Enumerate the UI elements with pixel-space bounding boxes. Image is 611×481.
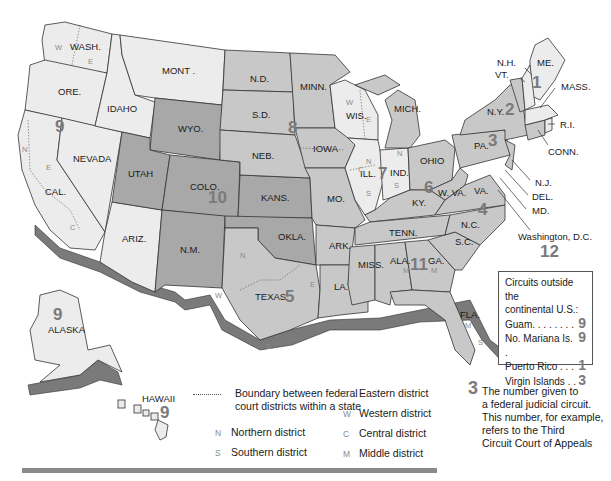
label-mass: MASS. [561,81,591,92]
label-utah: UTAH [128,168,153,179]
label-sd: S.D. [252,109,270,120]
outside-row-puerto-rico: Puerto Rico . . .1 [505,359,586,374]
legend-circuit-note: 3 The number given to a federal judicial… [468,385,608,450]
svg-text:M: M [431,266,437,275]
outside-title-2: continental U.S.: [505,303,586,317]
svg-text:E: E [88,57,93,66]
legend-ewcm: EEastern district WWestern district CCen… [343,387,431,461]
label-wash: WASH. [70,41,101,52]
circuit-2: 2 [505,100,514,119]
label-nm: N.M. [180,244,200,255]
label-wyo: WYO. [178,123,203,134]
circuit-1: 1 [532,73,541,92]
label-mo: MO. [327,193,345,204]
outside-title-1: Circuits outside the [505,276,586,303]
svg-text:E: E [366,115,371,124]
label-ri: R.I. [560,119,575,130]
svg-text:C: C [70,223,76,232]
outside-row-mariana: No. Mariana Is. .9 [505,331,586,359]
label-neb: NEB. [252,150,274,161]
svg-text:N: N [240,251,245,260]
label-nevada: NEVADA [73,153,112,164]
label-ariz: ARIZ. [122,233,146,244]
label-va: VA. [474,185,489,196]
svg-text:M: M [403,266,409,275]
label-cal: CAL. [45,186,66,197]
label-mich: MICH. [394,103,421,114]
label-pa: PA. [474,140,489,151]
state-ariz [100,202,162,292]
label-nc: N.C. [461,219,480,230]
circuit-6: 6 [424,178,433,197]
state-miss [348,245,375,305]
label-ore: ORE. [58,86,81,97]
label-idaho: IDAHO [107,103,137,114]
svg-text:E: E [46,163,51,172]
svg-text:C: C [358,165,364,174]
legend-boundary: Boundary between federal court districts… [193,387,361,413]
label-fla: FLA. [460,309,480,320]
label-sc: S.C. [455,236,473,247]
svg-text:N: N [366,157,371,166]
label-dc: Washington, D.C. [518,231,592,242]
circuit-5: 5 [285,287,294,306]
svg-text:W: W [55,43,63,52]
label-alaska: ALASKA [48,324,86,335]
label-hawaii: HAWAII [142,393,175,404]
svg-text:E: E [310,280,315,289]
label-md: MD. [532,205,549,216]
label-del: DEL. [532,191,553,202]
dotted-line-icon [193,394,221,395]
circuit-9: 9 [55,117,64,136]
label-ala: ALA. [390,255,411,266]
label-ny: N.Y. [487,106,504,117]
legend-ns: NNorthern district SSouthern district [215,426,307,460]
label-conn: CONN. [548,146,579,157]
circuit-9-alaska: 9 [53,305,62,324]
svg-text:S: S [478,338,483,347]
label-minn: MINN. [300,81,327,92]
svg-text:N: N [397,149,402,158]
outside-continental-box: Circuits outside the continental U.S.: G… [498,271,593,365]
label-nd: N.D. [250,73,269,84]
svg-text:W: W [215,291,223,300]
circuit-12: 12 [540,242,559,261]
label-wis: WIS. [346,110,367,121]
label-iowa: IOWA [313,143,339,154]
label-mont: MONT . [162,65,195,76]
label-wva: W. VA. [438,187,466,198]
svg-text:N: N [22,145,27,154]
svg-text:S: S [394,181,399,190]
label-ky: KY. [412,197,426,208]
svg-text:S: S [266,342,271,351]
circuit-8: 8 [288,118,297,137]
label-texas: TEXAS [255,291,286,302]
label-okla: OKLA. [278,231,306,242]
footer-rule [22,468,437,473]
circuit-7: 7 [378,164,387,183]
circuit-3: 3 [488,131,497,150]
label-ga: GA. [428,255,444,266]
label-ark: ARK. [329,240,351,251]
label-nj: N.J. [535,177,552,188]
label-miss: MISS. [358,259,384,270]
label-la: LA. [334,281,348,292]
label-ind: IND. [390,167,409,178]
label-ohio: OHIO [420,155,444,166]
label-nh: N.H. [497,57,516,68]
label-vt: VT. [495,69,509,80]
circuit-10: 10 [208,188,227,207]
svg-text:S: S [366,189,371,198]
circuit-4: 4 [478,200,488,219]
svg-text:W: W [346,98,354,107]
outside-row-guam: Guam. . . . . . . .9 [505,317,586,332]
circuit-11: 11 [410,255,428,274]
label-kans: KANS. [261,192,290,203]
svg-text:M: M [465,321,471,330]
circuit-9-hawaii: 9 [160,403,169,422]
label-tenn: TENN. [389,227,418,238]
state-ri [545,118,552,133]
state-nd [223,50,293,92]
label-me: ME. [537,57,554,68]
